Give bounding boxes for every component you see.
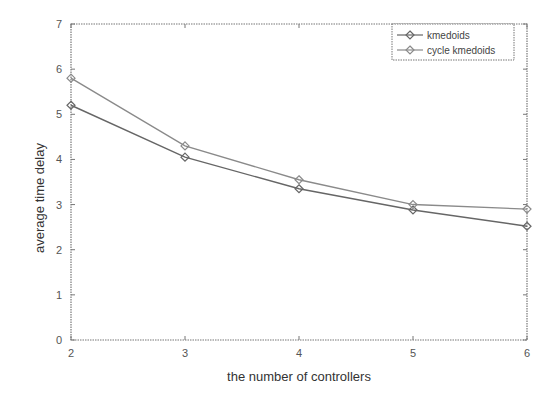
y-tick-label: 7: [56, 18, 62, 30]
y-tick-label: 5: [56, 108, 62, 120]
x-tick-label: 6: [524, 347, 530, 359]
y-tick-label: 3: [56, 199, 62, 211]
y-tick-label: 0: [56, 334, 62, 346]
x-tick-label: 3: [182, 347, 188, 359]
line-chart: 01234567 23456 the number of controllers…: [0, 0, 553, 395]
y-tick-label: 1: [56, 289, 62, 301]
y-tick-label: 2: [56, 244, 62, 256]
y-tick-label: 4: [56, 153, 62, 165]
x-tick-label: 5: [410, 347, 416, 359]
x-tick-label: 2: [68, 347, 74, 359]
x-tick-label: 4: [296, 347, 302, 359]
y-axis-label: average time delay: [32, 143, 47, 253]
legend-label: cycle kmedoids: [427, 45, 495, 56]
y-tick-label: 6: [56, 63, 62, 75]
legend: kmedoidscycle kmedoids: [392, 24, 514, 60]
x-axis-label: the number of controllers: [227, 369, 371, 384]
legend-label: kmedoids: [427, 30, 470, 41]
plot-area: [71, 24, 527, 340]
